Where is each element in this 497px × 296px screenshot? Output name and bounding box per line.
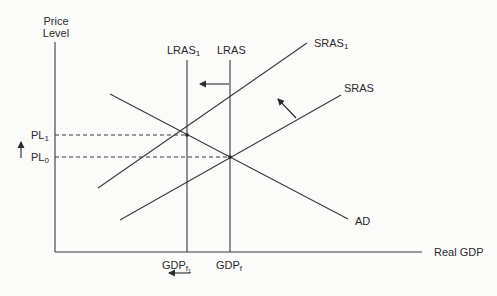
y-axis-label-line2: Level xyxy=(40,27,72,39)
sras1-label: SRAS1 xyxy=(314,37,348,49)
lras1-label: LRAS1 xyxy=(167,44,200,56)
gdpf1-label: GDPf1 xyxy=(162,259,191,271)
gdpf-label: GDPf xyxy=(216,259,242,271)
diagram-canvas xyxy=(0,0,497,296)
x-axis-label: Real GDP xyxy=(434,246,484,258)
lras-label: LRAS xyxy=(217,44,246,56)
sras1-line xyxy=(98,43,307,188)
equilibrium-point-1 xyxy=(185,133,189,137)
sras-shift-arrow-icon xyxy=(278,99,296,118)
sras-label: SRAS xyxy=(344,82,374,94)
pl0-label: PL0 xyxy=(31,151,49,163)
pl1-label: PL1 xyxy=(31,129,49,141)
y-axis-label: Price Level xyxy=(40,15,72,39)
ad-label: AD xyxy=(355,215,370,227)
y-axis-label-line1: Price xyxy=(40,15,72,27)
equilibrium-point-0 xyxy=(228,155,232,159)
